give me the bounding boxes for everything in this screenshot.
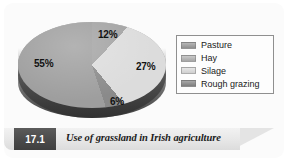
legend-item-silage: Silage	[181, 65, 270, 78]
legend-item-rough-grazing: Rough grazing	[181, 77, 270, 90]
legend-swatch-icon	[181, 42, 196, 49]
figure-number-badge: 17.1	[14, 128, 56, 150]
figure-number: 17.1	[25, 134, 44, 145]
legend-label: Silage	[201, 65, 226, 77]
legend-label: Hay	[201, 52, 217, 64]
figure-container: 55% 12% 27% 6% Pasture Hay Silage Rough …	[0, 0, 288, 168]
figure-caption-text: Use of grassland in Irish agriculture	[66, 132, 221, 143]
legend-item-hay: Hay	[181, 52, 270, 65]
legend-swatch-icon	[181, 80, 196, 87]
pie-label-silage: 27%	[136, 61, 155, 72]
legend-label: Pasture	[201, 39, 232, 51]
pie-label-rough-grazing: 6%	[110, 96, 124, 107]
legend-swatch-icon	[181, 55, 196, 62]
pie-graphic: 55% 12% 27% 6%	[12, 10, 172, 122]
pie-chart: 55% 12% 27% 6%	[12, 8, 182, 126]
legend-swatch-icon	[181, 67, 196, 74]
chart-legend: Pasture Hay Silage Rough grazing	[176, 35, 274, 94]
legend-item-pasture: Pasture	[181, 39, 270, 52]
pie-label-hay: 12%	[98, 29, 117, 40]
pie-label-pasture: 55%	[34, 58, 53, 69]
figure-caption-bar: 17.1 Use of grassland in Irish agricultu…	[4, 128, 284, 150]
legend-label: Rough grazing	[201, 78, 260, 90]
